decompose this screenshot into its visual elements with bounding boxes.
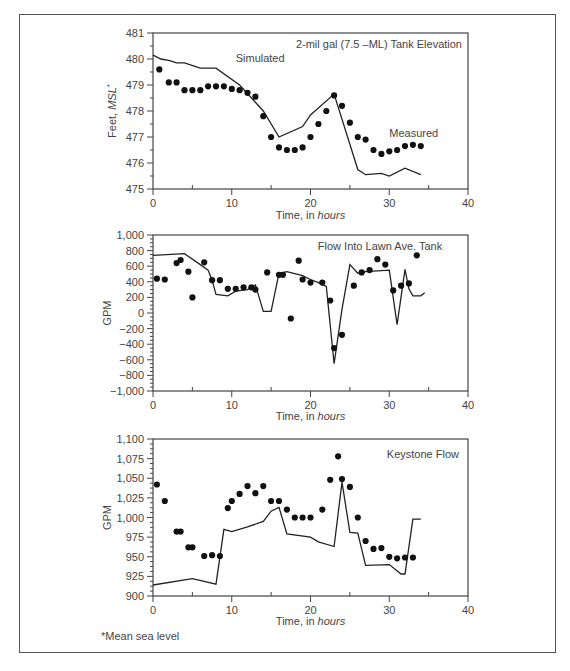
measured-point (276, 144, 282, 150)
measured-point (300, 276, 306, 282)
measured-point (237, 491, 243, 497)
y-tick-label: 477 (126, 131, 144, 143)
measured-point (189, 87, 195, 93)
measured-point (378, 545, 384, 551)
series-annotation: Measured (389, 127, 438, 139)
measured-point (402, 554, 408, 560)
measured-point (378, 151, 384, 157)
charts-canvas: 475476477478479480481010203040Time, in h… (0, 0, 570, 671)
plot-area (153, 235, 468, 391)
x-tick-label: 40 (462, 604, 474, 616)
measured-point (189, 544, 195, 550)
measured-point (351, 283, 357, 289)
y-axis-label: Feet, MSL* (105, 84, 118, 138)
measured-point (331, 345, 337, 351)
measured-point (233, 286, 239, 292)
measured-point (300, 144, 306, 150)
measured-point (288, 315, 294, 321)
x-tick-label: 20 (304, 197, 316, 209)
measured-point (339, 332, 345, 338)
measured-point (178, 257, 184, 263)
measured-point (402, 143, 408, 149)
measured-point (264, 269, 270, 275)
measured-point (229, 498, 235, 504)
y-tick-label: −800 (119, 369, 144, 381)
measured-point (213, 83, 219, 89)
y-axis-label: GPM (101, 505, 113, 530)
chart-title: Keystone Flow (387, 448, 459, 460)
measured-point (244, 90, 250, 96)
measured-point (292, 514, 298, 520)
y-tick-label: 600 (126, 260, 144, 272)
measured-point (319, 507, 325, 513)
x-tick-label: 30 (383, 197, 395, 209)
measured-point (374, 256, 380, 262)
plot-area (153, 33, 468, 189)
y-tick-label: 950 (126, 551, 144, 563)
measured-point (394, 147, 400, 153)
measured-point (410, 554, 416, 560)
measured-point (315, 121, 321, 127)
measured-point (339, 103, 345, 109)
y-tick-label: 925 (126, 570, 144, 582)
measured-point (225, 286, 231, 292)
y-tick-label: 900 (126, 590, 144, 602)
y-tick-label: 479 (126, 79, 144, 91)
measured-point (363, 538, 369, 544)
y-tick-label: 200 (126, 291, 144, 303)
measured-point (197, 87, 203, 93)
measured-point (225, 505, 231, 511)
measured-point (386, 554, 392, 560)
measured-point (268, 134, 274, 140)
measured-point (292, 147, 298, 153)
x-tick-label: 40 (462, 197, 474, 209)
y-tick-label: 476 (126, 157, 144, 169)
measured-point (166, 79, 172, 85)
simulated-line (153, 482, 421, 585)
measured-point (363, 137, 369, 143)
measured-point (181, 87, 187, 93)
measured-point (252, 94, 258, 100)
footnote: *Mean sea level (101, 630, 179, 642)
y-tick-label: 800 (126, 245, 144, 257)
y-tick-label: 0 (138, 307, 144, 319)
measured-point (237, 87, 243, 93)
tank-elevation-chart: 475476477478479480481010203040Time, in h… (105, 27, 474, 221)
y-tick-label: 1,000 (116, 512, 144, 524)
measured-point (189, 294, 195, 300)
x-tick-label: 0 (150, 197, 156, 209)
measured-point (252, 490, 258, 496)
measured-point (178, 529, 184, 535)
measured-point (406, 280, 412, 286)
measured-point (327, 297, 333, 303)
measured-point (174, 79, 180, 85)
y-tick-label: 481 (126, 27, 144, 39)
measured-point (327, 477, 333, 483)
measured-point (185, 269, 191, 275)
simulated-line (153, 254, 425, 364)
x-tick-label: 0 (150, 604, 156, 616)
y-axis-label: GPM (101, 300, 113, 325)
y-tick-label: 1,050 (116, 472, 144, 484)
y-tick-label: 1,100 (116, 433, 144, 445)
x-tick-label: 30 (383, 399, 395, 411)
y-tick-label: 1,075 (116, 453, 144, 465)
measured-point (280, 272, 286, 278)
measured-point (162, 498, 168, 504)
measured-point (201, 259, 207, 265)
chart-title: Flow Into Lawn Ave. Tank (318, 240, 443, 252)
measured-point (347, 120, 353, 126)
x-tick-label: 0 (150, 399, 156, 411)
y-tick-label: −1,000 (110, 385, 144, 397)
measured-point (300, 514, 306, 520)
measured-point (154, 481, 160, 487)
y-tick-label: −200 (119, 323, 144, 335)
x-tick-label: 30 (383, 604, 395, 616)
y-tick-label: 480 (126, 53, 144, 65)
measured-point (296, 258, 302, 264)
measured-point (331, 92, 337, 98)
measured-point (370, 147, 376, 153)
measured-point (276, 498, 282, 504)
x-axis-label: Time, in hours (276, 209, 346, 221)
measured-point (217, 553, 223, 559)
